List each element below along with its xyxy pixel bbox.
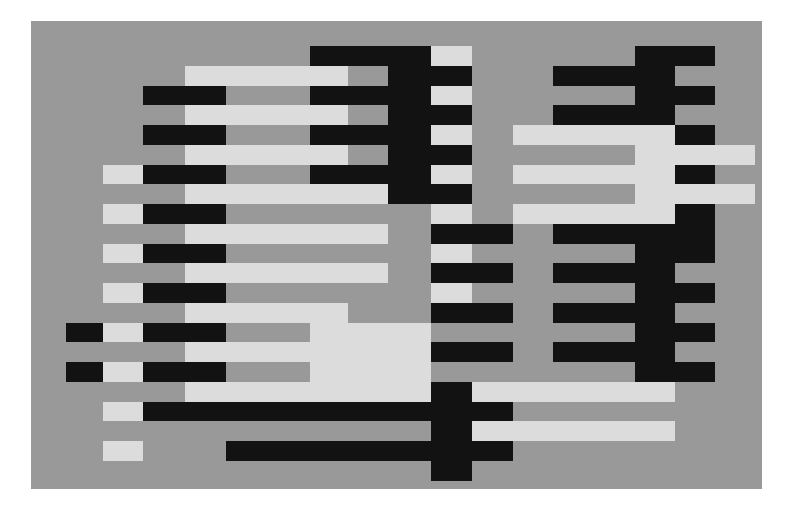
black-bar	[143, 283, 226, 303]
light-bar	[103, 244, 143, 263]
black-bar	[143, 125, 226, 145]
black-bar	[635, 46, 715, 66]
light-bar	[635, 145, 675, 204]
black-bar	[143, 165, 226, 184]
black-bar	[143, 402, 226, 421]
light-bar	[103, 402, 143, 421]
light-bar	[431, 125, 472, 145]
black-bar	[431, 342, 513, 362]
light-bar	[431, 204, 472, 224]
black-bar	[553, 66, 635, 86]
bar-composition	[0, 0, 810, 513]
light-bar	[431, 283, 472, 303]
black-bar	[310, 86, 388, 105]
light-bar	[185, 224, 388, 244]
light-bar	[185, 184, 388, 204]
black-bar	[143, 204, 226, 224]
light-bar	[431, 86, 472, 105]
black-bar	[675, 125, 715, 145]
black-bar	[226, 441, 513, 461]
black-bar	[431, 224, 513, 244]
black-bar	[635, 224, 675, 382]
light-bar	[431, 244, 472, 263]
black-bar	[431, 184, 472, 204]
black-bar	[553, 342, 635, 362]
light-bar	[431, 46, 472, 66]
light-bar	[185, 66, 348, 86]
black-bar	[66, 362, 103, 382]
black-bar	[635, 66, 675, 125]
light-bar	[103, 323, 143, 342]
light-bar	[103, 204, 143, 224]
black-bar	[143, 362, 226, 382]
black-bar	[675, 86, 715, 105]
light-bar	[185, 105, 348, 125]
light-bar	[348, 323, 431, 342]
black-bar	[553, 224, 715, 244]
black-bar	[675, 244, 715, 263]
light-bar	[310, 382, 431, 402]
light-bar	[513, 204, 675, 224]
black-bar	[431, 105, 472, 125]
light-bar	[103, 165, 143, 184]
black-bar	[66, 323, 103, 342]
light-bar	[431, 165, 472, 184]
light-bar	[185, 145, 348, 165]
black-bar	[431, 303, 513, 323]
black-bar	[553, 263, 635, 283]
black-bar	[310, 165, 388, 184]
light-bar	[185, 303, 348, 323]
black-bar	[431, 66, 472, 86]
black-bar	[675, 165, 715, 184]
light-bar	[675, 184, 755, 204]
light-bar	[675, 145, 755, 165]
light-bar	[472, 421, 675, 441]
black-bar	[226, 402, 513, 421]
light-bar	[103, 283, 143, 303]
black-bar	[431, 263, 513, 283]
black-bar	[143, 323, 226, 342]
light-bar	[472, 382, 675, 402]
light-bar	[513, 165, 635, 184]
light-bar	[513, 125, 675, 145]
black-bar	[553, 303, 635, 323]
black-bar	[388, 46, 431, 204]
light-bar	[103, 362, 143, 382]
light-bar	[348, 362, 431, 382]
black-bar	[143, 86, 226, 105]
light-bar	[103, 441, 143, 461]
black-bar	[431, 145, 472, 165]
black-bar	[143, 244, 226, 263]
black-bar	[635, 362, 715, 382]
black-bar	[675, 204, 715, 224]
black-bar	[675, 283, 715, 303]
light-bar	[185, 263, 388, 283]
black-bar	[310, 46, 388, 66]
black-bar	[675, 323, 715, 342]
black-bar	[431, 382, 472, 481]
black-bar	[310, 125, 388, 145]
